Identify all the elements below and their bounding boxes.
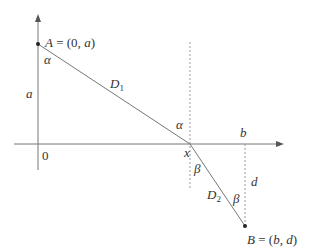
segment-d2 (190, 144, 245, 226)
refraction-diagram: A = (0, a) α a D1 α b 0 x β d D2 β B = (… (0, 0, 310, 252)
point-a-name: A (45, 35, 53, 50)
x-axis-arrow-icon (276, 141, 284, 147)
segment-d1 (38, 44, 190, 144)
point-a-label: A = (0, a) (45, 36, 95, 49)
a-label: a (26, 87, 33, 100)
d2-sub: 2 (216, 194, 221, 204)
b-label: b (240, 126, 247, 139)
point-a-marker (36, 42, 40, 46)
d1-main: D (110, 76, 119, 91)
point-a-close: ) (91, 35, 95, 50)
beta-top-label: β (194, 162, 200, 175)
point-b-eq: = ( (255, 232, 273, 247)
alpha-top-label: α (44, 53, 51, 66)
point-b-label: B = (b, d) (247, 233, 297, 246)
d-label: d (251, 175, 258, 188)
y-axis-arrow-icon (35, 14, 41, 22)
point-a-eq: = (0, (53, 35, 84, 50)
origin-label: 0 (42, 149, 49, 162)
point-b-close: ) (293, 232, 297, 247)
d2-label: D2 (207, 188, 221, 201)
x-label: x (184, 146, 190, 159)
alpha-mid-label: α (176, 118, 183, 131)
point-b-name: B (247, 232, 255, 247)
d1-sub: 1 (119, 83, 124, 93)
d2-main: D (207, 187, 216, 202)
d1-label: D1 (110, 77, 124, 90)
point-b-marker (243, 224, 247, 228)
beta-bottom-label: β (233, 192, 239, 205)
